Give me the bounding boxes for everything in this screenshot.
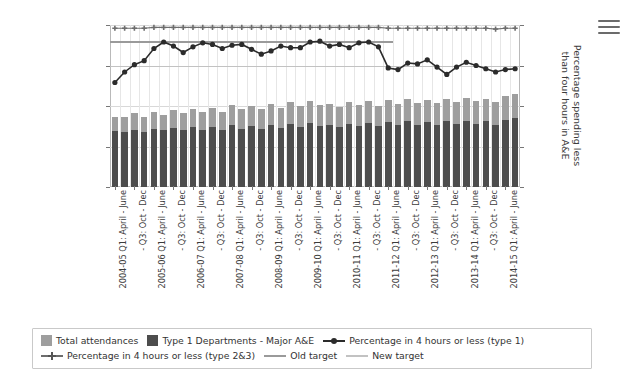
y-tick-mark-left	[106, 25, 110, 26]
chart-page: Number of attendances (millions) Percent…	[0, 0, 631, 375]
x-tick-mark	[330, 186, 331, 190]
legend-label: New target	[372, 350, 424, 361]
y-tick-mark-left	[106, 147, 110, 148]
legend-label: Old target	[290, 350, 337, 361]
y-tick-mark-right	[520, 66, 524, 67]
hamburger-menu-icon[interactable]	[598, 20, 620, 34]
x-tick-mark	[252, 186, 253, 190]
legend-item[interactable]: Type 1 Departments - Major A&E	[147, 335, 314, 346]
x-tick-mark	[427, 186, 428, 190]
x-tick-label: - Q3: Oct - Dec	[138, 190, 148, 251]
x-tick-mark	[466, 186, 467, 190]
y-tick-mark-right	[520, 187, 524, 188]
x-tick-label: - Q3: Oct - Dec	[450, 190, 460, 251]
y-tick-mark-right	[520, 147, 524, 148]
x-tick-mark	[173, 186, 174, 190]
x-tick-mark	[291, 186, 292, 190]
x-tick-mark	[193, 186, 194, 190]
legend-item[interactable]: Percentage in 4 hours or less (type 2&3)	[41, 350, 255, 361]
legend-swatch-box-icon	[147, 335, 158, 346]
x-tick-mark	[232, 186, 233, 190]
x-tick-mark	[505, 186, 506, 190]
legend-item[interactable]: Old target	[264, 350, 337, 361]
x-tick-label: 2008-09 Q1: April - June	[274, 190, 284, 289]
x-tick-label: 2014-15 Q1: April - June	[509, 190, 519, 289]
menu-bar-2	[598, 26, 620, 28]
x-tick-label: 2005-06 Q1: April - June	[157, 190, 167, 289]
x-tick-mark	[213, 186, 214, 190]
legend-swatch-circle-marker-icon	[323, 335, 345, 346]
plot-area: 0.02.55.07.510.0 80.085.090.095.0100.0	[110, 25, 520, 187]
legend-row-1: Total attendancesType 1 Departments - Ma…	[41, 333, 583, 348]
x-tick-label: - Q3: Oct - Dec	[489, 190, 499, 251]
menu-bar-3	[598, 32, 620, 34]
y-axis-title-right: Percentage spending less than four hours…	[553, 18, 583, 193]
legend-item[interactable]: Total attendances	[41, 335, 138, 346]
y-tick-mark-right	[520, 106, 524, 107]
y-tick-mark-right	[520, 25, 524, 26]
legend-item[interactable]: Percentage in 4 hours or less (type 1)	[323, 335, 524, 346]
y-tick-mark-left	[106, 106, 110, 107]
x-tick-mark	[408, 186, 409, 190]
line-type1	[112, 39, 517, 86]
line-series-group	[110, 25, 520, 187]
x-tick-mark	[310, 186, 311, 190]
legend-label: Total attendances	[56, 335, 138, 346]
x-tick-label: - Q3: Oct - Dec	[411, 190, 421, 251]
x-tick-mark	[486, 186, 487, 190]
x-tick-mark	[447, 186, 448, 190]
x-tick-mark	[154, 186, 155, 190]
y-tick-mark-left	[106, 187, 110, 188]
legend-swatch-plus-marker-icon	[41, 350, 63, 361]
x-axis-labels: 2004-05 Q1: April - June- Q3: Oct - Dec2…	[110, 190, 520, 310]
x-tick-mark	[271, 186, 272, 190]
x-tick-label: - Q3: Oct - Dec	[294, 190, 304, 251]
x-tick-label: - Q3: Oct - Dec	[255, 190, 265, 251]
x-tick-label: - Q3: Oct - Dec	[216, 190, 226, 251]
x-tick-mark	[115, 186, 116, 190]
x-tick-mark	[388, 186, 389, 190]
x-tick-mark	[134, 186, 135, 190]
x-tick-label: - Q3: Oct - Dec	[177, 190, 187, 251]
x-tick-label: 2010-11 Q1: April - June	[352, 190, 362, 289]
x-tick-label: 2006-07 Q1: April - June	[196, 190, 206, 289]
chart-legend: Total attendancesType 1 Departments - Ma…	[32, 328, 592, 369]
menu-bar-1	[598, 20, 620, 22]
x-tick-label: 2007-08 Q1: April - June	[235, 190, 245, 289]
legend-item[interactable]: New target	[346, 350, 424, 361]
legend-swatch-box-icon	[41, 335, 52, 346]
x-tick-label: 2011-12 Q1: April - June	[391, 190, 401, 289]
x-tick-mark	[349, 186, 350, 190]
legend-swatch-line-icon	[346, 350, 368, 361]
legend-swatch-line-icon	[264, 350, 286, 361]
legend-label: Percentage in 4 hours or less (type 2&3)	[67, 350, 255, 361]
legend-row-2: Percentage in 4 hours or less (type 2&3)…	[41, 348, 583, 363]
x-tick-label: 2004-05 Q1: April - June	[118, 190, 128, 289]
y-tick-mark-left	[106, 66, 110, 67]
x-tick-label: - Q3: Oct - Dec	[372, 190, 382, 251]
x-tick-label: 2009-10 Q1: April - June	[313, 190, 323, 289]
legend-label: Type 1 Departments - Major A&E	[162, 335, 314, 346]
line-type23	[112, 25, 517, 32]
x-tick-label: 2013-14 Q1: April - June	[470, 190, 480, 289]
x-tick-label: - Q3: Oct - Dec	[333, 190, 343, 251]
x-tick-label: 2012-13 Q1: April - June	[430, 190, 440, 289]
x-tick-mark	[369, 186, 370, 190]
legend-label: Percentage in 4 hours or less (type 1)	[349, 335, 524, 346]
